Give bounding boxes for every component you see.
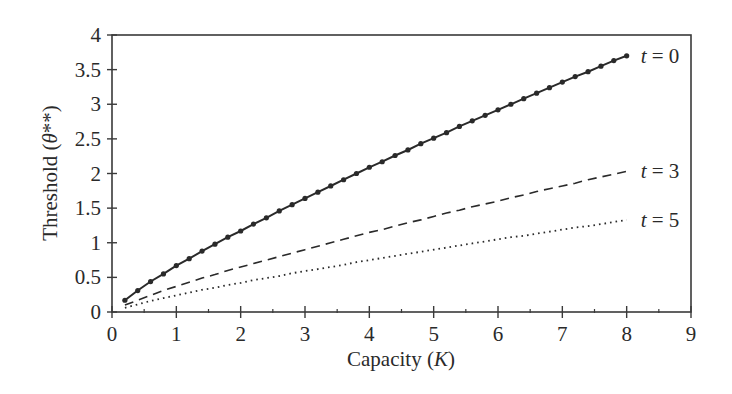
data-point-marker (341, 177, 346, 182)
data-point-marker (598, 64, 603, 69)
y-axis: 00.511.522.533.54 (75, 23, 117, 324)
data-point-marker (290, 202, 295, 207)
data-point-marker (431, 136, 436, 141)
x-tick-label: 9 (686, 322, 697, 346)
data-point-marker (161, 271, 166, 276)
data-point-marker (148, 279, 153, 284)
x-tick-label: 7 (557, 322, 568, 346)
x-tick-label: 6 (493, 322, 504, 346)
data-point-marker (418, 141, 423, 146)
data-point-marker (585, 69, 590, 74)
data-point-marker (444, 130, 449, 135)
data-point-marker (624, 53, 629, 58)
data-point-marker (251, 221, 256, 226)
data-point-marker (225, 235, 230, 240)
y-tick-label: 0.5 (75, 265, 101, 289)
data-point-marker (367, 165, 372, 170)
y-tick-label: 1 (91, 231, 102, 255)
data-point-marker (521, 96, 526, 101)
series-line-t3 (125, 171, 627, 305)
data-point-marker (122, 298, 127, 303)
data-point-marker (277, 208, 282, 213)
data-point-marker (238, 228, 243, 233)
series-label-t3: t = 3 (641, 159, 680, 183)
series-label-t5: t = 5 (641, 208, 680, 232)
data-point-marker (611, 58, 616, 63)
series-label-t0: t = 0 (641, 44, 680, 68)
y-tick-label: 1.5 (75, 196, 101, 220)
data-point-marker (315, 190, 320, 195)
x-tick-label: 4 (364, 322, 375, 346)
data-point-marker (560, 79, 565, 84)
x-tick-label: 2 (235, 322, 246, 346)
y-tick-label: 3 (91, 92, 102, 116)
x-axis-title: Capacity (K) (347, 347, 455, 371)
data-point-marker (470, 118, 475, 123)
data-point-marker (199, 248, 204, 253)
data-point-marker (264, 215, 269, 220)
y-tick-label: 0 (91, 300, 102, 324)
plot-border (112, 35, 691, 312)
data-point-marker (483, 113, 488, 118)
data-point-marker (508, 102, 513, 107)
data-point-marker (495, 107, 500, 112)
data-point-marker (135, 288, 140, 293)
y-tick-label: 4 (91, 23, 102, 47)
y-tick-label: 3.5 (75, 58, 101, 82)
plot-frame (112, 35, 691, 312)
x-tick-label: 0 (107, 322, 118, 346)
data-point-marker (187, 256, 192, 261)
line-chart: 0123456789 00.511.522.533.54 t = 0t = 3t… (0, 0, 732, 394)
x-tick-label: 3 (300, 322, 311, 346)
series-line-t0 (125, 56, 627, 300)
x-tick-label: 5 (428, 322, 439, 346)
data-point-marker (354, 171, 359, 176)
y-tick-label: 2.5 (75, 127, 101, 151)
data-point-marker (212, 242, 217, 247)
y-tick-label: 2 (91, 162, 102, 186)
y-axis-title: Threshold (θ**) (38, 105, 62, 241)
data-point-marker (174, 263, 179, 268)
series-line-t5 (125, 220, 627, 308)
x-tick-label: 8 (621, 322, 632, 346)
data-point-marker (457, 124, 462, 129)
data-point-marker (380, 159, 385, 164)
series-layer (122, 53, 629, 308)
data-point-marker (405, 147, 410, 152)
data-point-marker (547, 85, 552, 90)
series-labels: t = 0t = 3t = 5 (641, 44, 680, 232)
data-point-marker (573, 74, 578, 79)
x-tick-label: 1 (171, 322, 182, 346)
data-point-marker (392, 153, 397, 158)
data-point-marker (328, 183, 333, 188)
data-point-marker (534, 91, 539, 96)
data-point-marker (302, 196, 307, 201)
